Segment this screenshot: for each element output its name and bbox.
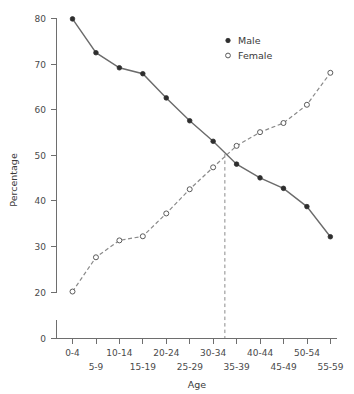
- line-chart: 80 70 60 50 40 30 20 0 Percentage 0-4 10…: [0, 0, 354, 394]
- male-data-point: [281, 186, 286, 191]
- female-data-point: [234, 143, 239, 148]
- y-tick-label-70: 70: [35, 60, 47, 70]
- female-data-point: [187, 187, 192, 192]
- male-data-point: [70, 17, 75, 22]
- legend-label-male: Male: [238, 35, 261, 46]
- x-tick-label-45-49: 45-49: [271, 362, 297, 372]
- female-series-markers: [70, 70, 333, 294]
- x-tick-label-25-29: 25-29: [177, 362, 203, 372]
- male-data-point: [117, 65, 122, 70]
- female-data-point: [328, 70, 333, 75]
- y-tick-label-20: 20: [35, 288, 47, 298]
- x-tick-label-10-14: 10-14: [106, 348, 132, 358]
- legend-label-female: Female: [238, 50, 273, 61]
- y-tick-marks: [51, 19, 57, 339]
- y-tick-label-80: 80: [35, 14, 47, 24]
- legend: Male Female: [226, 35, 273, 61]
- y-tick-label-40: 40: [35, 196, 47, 206]
- x-tick-label-35-39: 35-39: [224, 362, 250, 372]
- x-tick-label-40-44: 40-44: [247, 348, 273, 358]
- female-data-point: [140, 234, 145, 239]
- male-data-point: [141, 71, 146, 76]
- x-tick-label-50-54: 50-54: [294, 348, 320, 358]
- x-axis-title: Age: [188, 379, 207, 390]
- y-tick-label-0: 0: [40, 334, 46, 344]
- legend-open-circle-icon: [226, 53, 231, 58]
- male-data-point: [234, 162, 239, 167]
- male-series-markers: [70, 17, 332, 239]
- female-data-point: [258, 130, 263, 135]
- female-data-point: [70, 289, 75, 294]
- legend-filled-circle-icon: [226, 38, 230, 42]
- male-series-line: [73, 19, 331, 237]
- y-tick-label-50: 50: [35, 151, 47, 161]
- x-tick-label-55-59: 55-59: [317, 362, 343, 372]
- female-data-point: [93, 255, 98, 260]
- y-tick-label-60: 60: [35, 105, 47, 115]
- x-tick-label-20-24: 20-24: [153, 348, 179, 358]
- x-tick-marks: [73, 339, 331, 345]
- female-data-point: [117, 238, 122, 243]
- y-tick-label-30: 30: [35, 242, 47, 252]
- male-data-point: [94, 50, 99, 55]
- y-axis-title: Percentage: [8, 153, 19, 207]
- female-data-point: [304, 102, 309, 107]
- female-series-line: [73, 73, 331, 292]
- male-data-point: [328, 234, 333, 239]
- x-tick-label-15-19: 15-19: [130, 362, 156, 372]
- male-data-point: [305, 204, 310, 209]
- female-data-point: [164, 211, 169, 216]
- x-tick-label-0-4: 0-4: [65, 348, 80, 358]
- male-data-point: [187, 118, 192, 123]
- male-data-point: [258, 176, 263, 181]
- male-data-point: [164, 96, 169, 101]
- male-data-point: [211, 139, 216, 144]
- chart-svg: 80 70 60 50 40 30 20 0 Percentage 0-4 10…: [0, 0, 354, 394]
- female-data-point: [211, 165, 216, 170]
- x-tick-label-30-34: 30-34: [200, 348, 226, 358]
- female-data-point: [281, 121, 286, 126]
- x-tick-label-5-9: 5-9: [89, 362, 104, 372]
